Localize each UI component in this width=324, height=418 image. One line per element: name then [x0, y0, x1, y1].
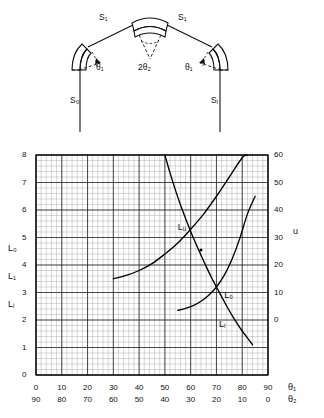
xtick-theta2-40: 40	[157, 395, 173, 404]
label-source: S₀	[70, 95, 79, 105]
x-axis-label-theta2: θ₂	[288, 394, 297, 404]
xtick-theta2-60: 60	[105, 395, 121, 404]
xtick-theta2-0: 0	[260, 395, 276, 404]
curve-label-l-u: Lᵤ	[178, 222, 186, 232]
annotation-point	[199, 248, 202, 251]
xtick-theta1-10: 10	[54, 383, 70, 392]
xtick-theta2-50: 50	[131, 395, 147, 404]
ytick-left-7: 7	[22, 178, 26, 187]
xtick-theta2-80: 80	[54, 395, 70, 404]
ytick-left-5: 5	[22, 233, 26, 242]
right-axis-unit-label: u	[293, 226, 298, 236]
schematic-svg	[0, 0, 324, 140]
ytick-left-0: 0	[22, 370, 26, 379]
label-right-angle: θ₁	[185, 62, 193, 72]
beam-left-s1	[88, 25, 133, 47]
ytick-left-8: 8	[22, 150, 26, 159]
xtick-theta2-70: 70	[80, 395, 96, 404]
label-beam-left-s1: S₁	[99, 12, 108, 22]
xtick-theta1-50: 50	[157, 383, 173, 392]
label-image: Sᵢ	[211, 95, 218, 105]
xtick-theta1-30: 30	[105, 383, 121, 392]
xtick-theta1-0: 0	[28, 383, 44, 392]
ytick-right-60: 60	[274, 150, 283, 159]
ytick-right-50: 50	[274, 178, 283, 187]
curve-label-l-o: L₀	[224, 290, 233, 300]
optical-schematic: S₁ S₁ 2θ₂ θ₁ θ₁ S₀ Sᵢ	[0, 0, 324, 140]
ytick-right-0: 0	[274, 315, 278, 324]
label-left-angle: θ₁	[96, 62, 104, 72]
ytick-left-6: 6	[22, 205, 26, 214]
curve-l-u	[165, 155, 253, 345]
left-axis-series-label-2: Lᵢ	[8, 299, 14, 309]
label-beam-right-s1: S₁	[178, 12, 187, 22]
ytick-right-30: 30	[274, 233, 283, 242]
left-axis-series-label-0: L₀	[8, 243, 17, 253]
ytick-left-4: 4	[22, 260, 26, 269]
xtick-theta2-20: 20	[208, 395, 224, 404]
xtick-theta1-70: 70	[208, 383, 224, 392]
beam-right-s1	[167, 25, 212, 47]
ytick-left-3: 3	[22, 288, 26, 297]
xtick-theta2-90: 90	[28, 395, 44, 404]
xtick-theta1-20: 20	[80, 383, 96, 392]
label-center-angle: 2θ₂	[138, 62, 151, 72]
xtick-theta2-10: 10	[234, 395, 250, 404]
ytick-left-1: 1	[22, 343, 26, 352]
xtick-theta1-60: 60	[183, 383, 199, 392]
left-crystal	[72, 44, 91, 70]
ytick-right-20: 20	[274, 260, 283, 269]
xtick-theta1-40: 40	[131, 383, 147, 392]
ytick-right-40: 40	[274, 205, 283, 214]
ytick-left-2: 2	[22, 315, 26, 324]
center-crystal	[132, 18, 168, 37]
right-crystal	[209, 44, 228, 70]
xtick-theta2-30: 30	[183, 395, 199, 404]
xtick-theta1-80: 80	[234, 383, 250, 392]
xtick-theta1-90: 90	[260, 383, 276, 392]
curve-label-l-i: Lᵢ	[219, 319, 225, 329]
left-axis-series-label-1: L₁	[8, 271, 16, 281]
x-axis-label-theta1: θ₁	[288, 382, 296, 392]
graph-panel: 012345678L₀L₁Lᵢ0102030405060u01020304050…	[0, 140, 324, 418]
ytick-right-10: 10	[274, 288, 283, 297]
right-arrow-icon	[199, 58, 205, 64]
center-angle-wedge	[139, 35, 161, 59]
